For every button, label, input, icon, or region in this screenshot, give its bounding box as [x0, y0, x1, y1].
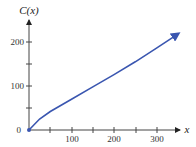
x-tick-label-100: 100: [65, 134, 79, 144]
y-tick-label-100: 100: [11, 81, 25, 91]
origin-point: [27, 128, 31, 132]
x-tick-label-200: 200: [107, 134, 121, 144]
chart: 100 200 300 0 100 200 C(x) x: [0, 0, 196, 147]
x-axis-label: x: [184, 123, 190, 135]
y-tick-label-0: 0: [17, 125, 22, 135]
y-tick-label-200: 200: [11, 37, 25, 47]
y-axis-label: C(x): [19, 4, 39, 17]
x-tick-label-300: 300: [150, 134, 164, 144]
cost-curve: [29, 34, 178, 130]
